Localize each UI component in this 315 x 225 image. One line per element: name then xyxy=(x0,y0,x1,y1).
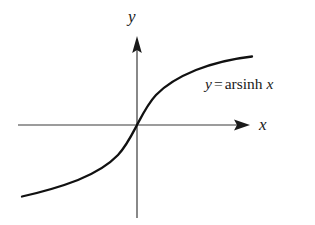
y-axis-label: y xyxy=(128,8,136,25)
arsinh-function-figure: y x y=arsinh x xyxy=(0,0,315,225)
x-axis-label: x xyxy=(259,116,267,133)
plot-canvas xyxy=(0,0,315,225)
curve-equation-label: y=arsinh x xyxy=(205,76,273,92)
equation-argument: x xyxy=(266,75,273,92)
equation-function-name: arsinh xyxy=(225,75,263,92)
equation-lhs: y xyxy=(205,75,212,92)
equation-equals-sign: = xyxy=(212,75,225,92)
